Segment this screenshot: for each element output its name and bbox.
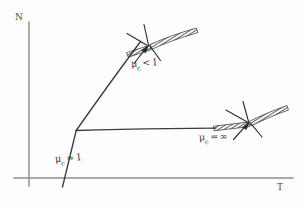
upper-hatch-right: [150, 28, 198, 49]
x-axis-label: T: [277, 182, 283, 192]
mu-low-value: 1: [151, 56, 158, 67]
sketch-canvas: [0, 0, 306, 206]
mu-inf-value: ∞: [220, 131, 228, 142]
y-axis-label: N: [15, 12, 23, 22]
mu-one-operator: ≈: [64, 152, 76, 164]
label-mu-c-less-than-one: μc<1: [131, 56, 159, 71]
mu-low-operator: <: [140, 57, 152, 69]
mu-one-value: 1: [75, 151, 82, 162]
lower-hatch-right: [249, 106, 288, 127]
curve-plateau-branch: [76, 128, 216, 130]
label-mu-c-equals-infinity: μc=∞: [199, 131, 228, 146]
sketch-figure: N T μc<1 μc=∞ μc≈1: [0, 0, 306, 206]
mu-inf-operator: =: [209, 131, 220, 142]
mu-subscript: c: [205, 138, 209, 146]
label-mu-c-approx-one: μc≈1: [55, 151, 83, 167]
